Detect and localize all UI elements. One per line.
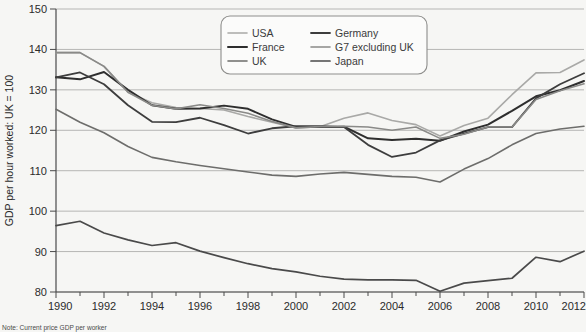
x-tick-label-2008: 2008: [476, 300, 500, 312]
legend-label-uk: UK: [252, 55, 267, 67]
legend-label-usa: USA: [252, 27, 274, 39]
y-tick-label-120: 120: [29, 124, 47, 136]
x-tick-label-2010: 2010: [524, 300, 548, 312]
x-axis-ticks: 1990199219941996199820002002200420062008…: [48, 292, 586, 312]
x-tick-label-2004: 2004: [380, 300, 404, 312]
series-line-japan: [56, 221, 584, 291]
y-axis-ticks: 8090100110120130140150: [29, 3, 56, 298]
y-tick-label-130: 130: [29, 84, 47, 96]
y-tick-label-90: 90: [35, 246, 47, 258]
y-tick-label-80: 80: [35, 286, 47, 298]
series-lines: [56, 53, 584, 292]
x-tick-label-2000: 2000: [284, 300, 308, 312]
y-tick-label-110: 110: [29, 165, 47, 177]
y-tick-label-100: 100: [29, 205, 47, 217]
x-tick-label-2002: 2002: [332, 300, 356, 312]
x-tick-label-2012: 2012: [562, 300, 586, 312]
chart-note: Note: Current price GDP per worker: [2, 324, 107, 332]
x-tick-label-1994: 1994: [140, 300, 164, 312]
legend-label-france: France: [252, 41, 285, 53]
chart-legend: USAFranceUKGermanyG7 excluding UKJapan: [221, 16, 427, 74]
legend-label-germany: Germany: [335, 27, 379, 39]
legend-label-g7-excluding-uk: G7 excluding UK: [335, 41, 414, 53]
gdp-per-hour-worked-line-chart: 8090100110120130140150 19901992199419961…: [0, 0, 586, 332]
x-tick-label-1996: 1996: [188, 300, 212, 312]
y-tick-label-150: 150: [29, 3, 47, 15]
x-tick-label-1992: 1992: [92, 300, 116, 312]
x-tick-label-1990: 1990: [48, 300, 72, 312]
chart-figure: 8090100110120130140150 19901992199419961…: [0, 0, 586, 332]
legend-label-japan: Japan: [335, 55, 364, 67]
x-tick-label-2006: 2006: [428, 300, 452, 312]
x-tick-label-1998: 1998: [236, 300, 260, 312]
y-axis-label: GDP per hour worked: UK = 100: [3, 75, 15, 226]
y-tick-label-140: 140: [29, 43, 47, 55]
